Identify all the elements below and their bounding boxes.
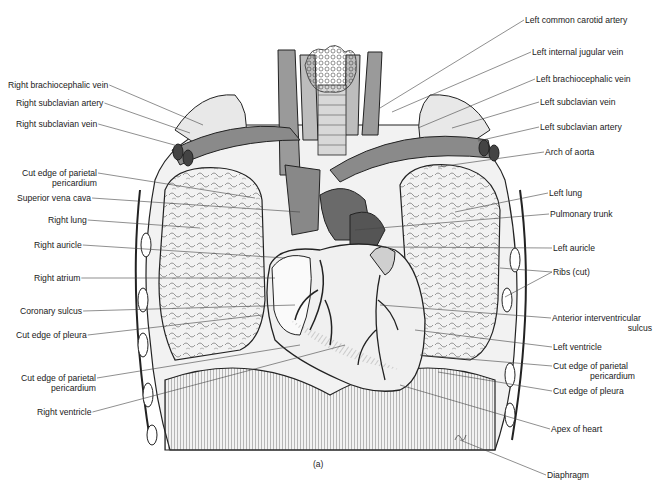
label-cut-edge-of-pleura-right: Cut edge of pleura	[553, 386, 624, 396]
anatomy-figure: Right brachiocephalic vein Right subclav…	[0, 0, 662, 496]
label-right-auricle: Right auricle	[34, 240, 82, 250]
label-pulmonary-trunk: Pulmonary trunk	[550, 209, 613, 219]
label-cut-edge-parietal-pericardium-right: Cut edge of parietal pericardium	[553, 361, 635, 381]
label-cut-edge-parietal-pericardium-upper: Cut edge of parietal pericardium	[17, 168, 97, 188]
label-left-ventricle: Left ventricle	[553, 342, 602, 352]
label-left-brachiocephalic-vein: Left brachiocephalic vein	[536, 74, 631, 84]
label-cut-edge-of-pleura-left: Cut edge of pleura	[16, 330, 87, 340]
label-line-2: pericardium	[17, 178, 97, 188]
label-left-lung: Left lung	[549, 188, 582, 198]
label-left-common-carotid-artery: Left common carotid artery	[525, 15, 627, 25]
label-diaphragm: Diaphragm	[547, 470, 589, 480]
label-left-subclavian-vein: Left subclavian vein	[540, 97, 615, 107]
label-right-subclavian-vein: Right subclavian vein	[16, 119, 97, 129]
label-line-1: Cut edge of parietal	[553, 361, 635, 371]
leader-line	[104, 103, 190, 133]
label-cut-edge-parietal-pericardium-lower: Cut edge of parietal pericardium	[16, 373, 96, 393]
label-line-2: sulcus	[552, 323, 652, 333]
label-superior-vena-cava: Superior vena cava	[17, 193, 91, 203]
label-line-1: Anterior interventricular	[552, 313, 652, 323]
label-ribs-cut: Ribs (cut)	[553, 267, 590, 277]
label-line-2: pericardium	[553, 371, 635, 381]
label-right-lung: Right lung	[48, 215, 87, 225]
label-anterior-interventricular-sulcus: Anterior interventricular sulcus	[552, 313, 652, 333]
thyroid-shape	[305, 45, 356, 92]
label-left-auricle: Left auricle	[553, 243, 595, 253]
label-arch-of-aorta: Arch of aorta	[545, 147, 594, 157]
label-apex-of-heart: Apex of heart	[551, 424, 602, 434]
label-left-internal-jugular-vein: Left internal jugular vein	[532, 47, 623, 57]
leader-line	[109, 85, 203, 125]
label-right-atrium: Right atrium	[34, 273, 80, 283]
label-coronary-sulcus: Coronary sulcus	[20, 306, 82, 316]
label-right-subclavian-artery: Right subclavian artery	[16, 98, 103, 108]
label-line-2: pericardium	[16, 383, 96, 393]
right-lung-shape	[159, 168, 265, 360]
label-right-brachiocephalic-vein: Right brachiocephalic vein	[8, 80, 108, 90]
label-left-subclavian-artery: Left subclavian artery	[540, 122, 622, 132]
leader-line	[98, 124, 178, 146]
leader-line	[460, 440, 546, 475]
figure-caption: (a)	[313, 459, 323, 469]
leader-line	[380, 20, 524, 108]
label-line-1: Cut edge of parietal	[17, 168, 97, 178]
label-line-1: Cut edge of parietal	[16, 373, 96, 383]
label-right-ventricle: Right ventricle	[37, 407, 91, 417]
